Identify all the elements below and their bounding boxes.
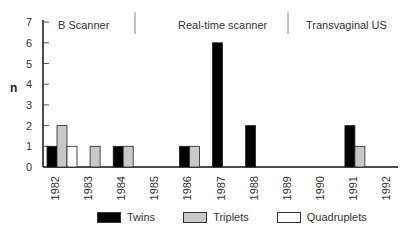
x-tick-label: 1983 (82, 176, 94, 200)
bar-twins-1991 (345, 126, 355, 167)
chart-legend: Twins Triplets Quadruplets (97, 211, 395, 223)
bar-triplets-1991 (355, 146, 365, 167)
quadruplets-swatch (277, 212, 301, 223)
x-tick-label: 1982 (49, 176, 61, 200)
chart-canvas: 01234567n1982198319841985198619871988198… (0, 0, 404, 244)
period-label-real-time: Real-time scanner (178, 19, 268, 31)
x-tick-label: 1992 (380, 176, 392, 200)
twins-swatch (97, 212, 121, 223)
y-tick-label: 0 (26, 161, 32, 173)
y-tick-label: 6 (26, 37, 32, 49)
y-tick-label: 2 (26, 120, 32, 132)
legend-label-quadruplets: Quadruplets (307, 211, 367, 223)
x-tick-label: 1986 (181, 176, 193, 200)
legend-item-triplets: Triplets (183, 211, 249, 223)
x-tick-label: 1984 (115, 176, 127, 200)
y-tick-label: 5 (26, 58, 32, 70)
legend-item-twins: Twins (97, 211, 155, 223)
y-tick-label: 7 (26, 16, 32, 28)
bar-triplets-1983 (90, 146, 100, 167)
bar-twins-1988 (246, 126, 256, 167)
period-label-b-scanner: B Scanner (58, 19, 110, 31)
y-tick-label: 1 (26, 140, 32, 152)
x-tick-label: 1988 (248, 176, 260, 200)
y-tick-label: 4 (26, 78, 32, 90)
x-tick-label: 1985 (148, 176, 160, 200)
bar-quadruplets-1982 (67, 146, 77, 167)
bar-twins-1982 (47, 146, 57, 167)
y-tick-label: 3 (26, 99, 32, 111)
legend-label-twins: Twins (127, 211, 155, 223)
y-axis-label: n (10, 81, 17, 95)
x-tick-label: 1987 (215, 176, 227, 200)
bar-triplets-1984 (123, 146, 133, 167)
legend-item-quadruplets: Quadruplets (277, 211, 367, 223)
bar-twins-1987 (213, 43, 223, 167)
legend-label-triplets: Triplets (213, 211, 249, 223)
x-tick-label: 1990 (314, 176, 326, 200)
x-tick-label: 1991 (347, 176, 359, 200)
bar-twins-1984 (113, 146, 123, 167)
x-tick-label: 1989 (281, 176, 293, 200)
multiple-births-bar-chart: 01234567n1982198319841985198619871988198… (0, 0, 404, 244)
bar-triplets-1986 (189, 146, 199, 167)
triplets-swatch (183, 212, 207, 223)
bar-triplets-1982 (57, 126, 67, 167)
period-label-transvaginal: Transvaginal US (306, 19, 387, 31)
bar-twins-1986 (179, 146, 189, 167)
